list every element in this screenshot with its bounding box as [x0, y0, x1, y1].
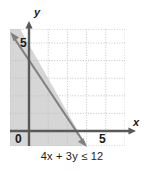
y-axis-tick-label-5: 5	[20, 36, 27, 50]
inequality-graph-figure: 5 5 0 x y 4x + 3y ≤ 12	[0, 0, 144, 173]
origin-label: 0	[15, 132, 22, 146]
y-axis-name: y	[33, 6, 41, 18]
inequality-caption: 4x + 3y ≤ 12	[0, 150, 144, 162]
coordinate-plane: 5 5 0 x y	[0, 0, 144, 173]
x-axis-tick-label-5: 5	[99, 132, 106, 146]
x-axis-name: x	[132, 116, 140, 128]
